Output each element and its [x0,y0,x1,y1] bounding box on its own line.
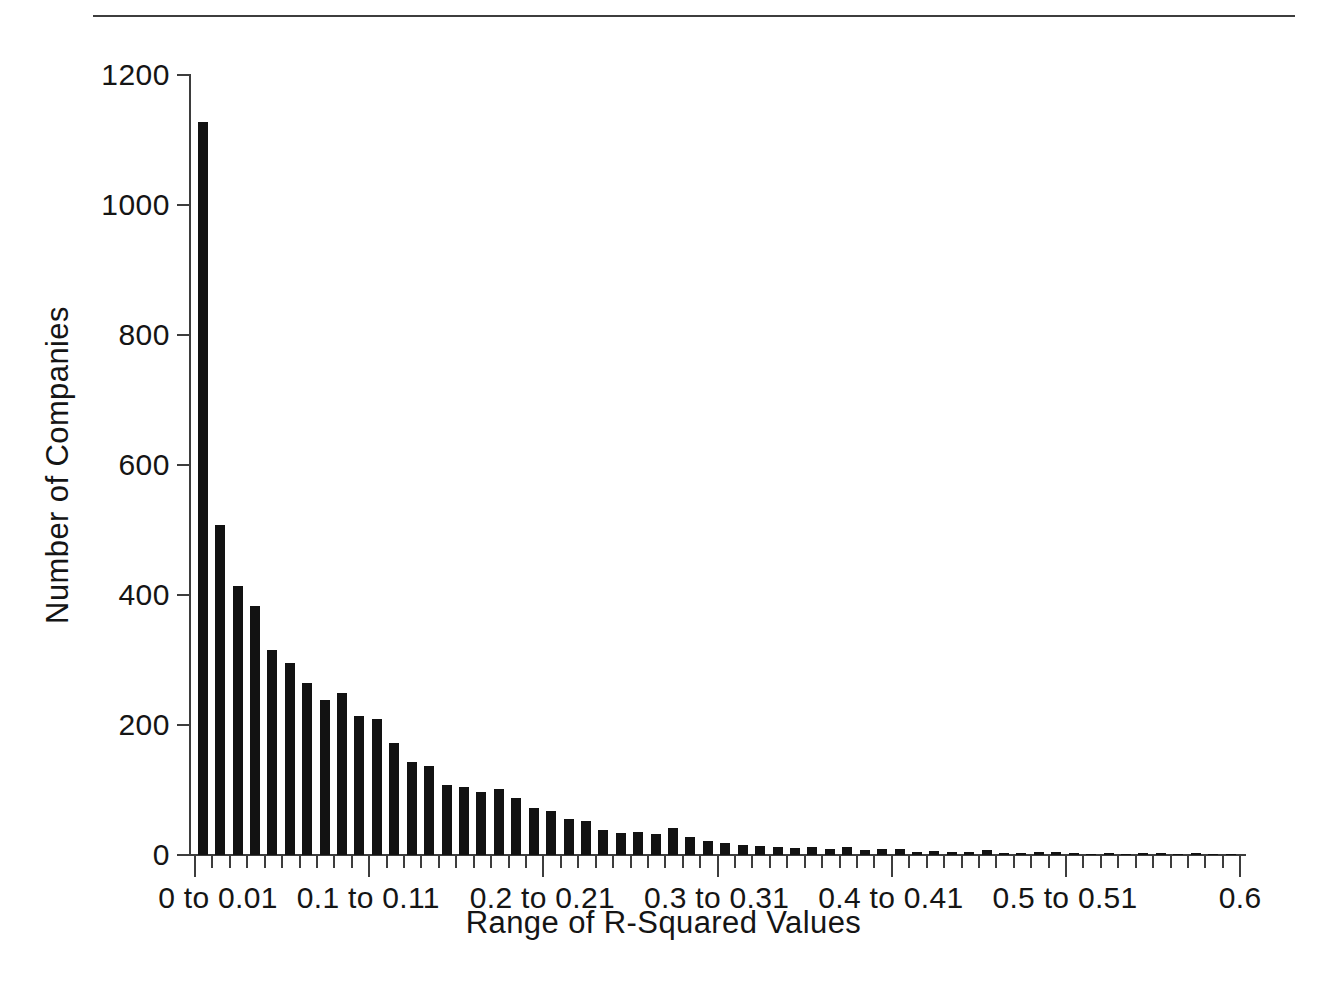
histogram-bar [982,850,992,855]
y-axis-tick-label: 600 [118,450,170,480]
histogram-bar [842,847,852,855]
x-axis-minor-tick [299,855,301,868]
histogram-bar [198,122,208,855]
y-axis-tick-label: 1200 [101,60,170,90]
histogram-bar [250,606,260,855]
histogram-bar [790,848,800,855]
x-axis-minor-tick [699,855,701,868]
x-axis-major-tick [368,855,370,877]
y-axis-tick [177,204,190,206]
x-axis-minor-tick [612,855,614,868]
histogram-bar [947,852,957,855]
histogram-bar [685,837,695,855]
y-axis-tick-label: 1000 [101,190,170,220]
plot-area: 020040060080010001200 0 to 0.010.1 to 0.… [190,75,1245,855]
histogram-bar [285,663,295,855]
histogram-bar [633,832,643,855]
histogram-bar [964,852,974,855]
x-axis-minor-tick [1030,855,1032,868]
x-axis-minor-tick [264,855,266,868]
histogram-bar [1051,852,1061,855]
y-axis-tick [177,854,190,856]
histogram-bar [616,833,626,855]
histogram-bar [895,849,905,856]
x-axis-minor-tick [490,855,492,868]
histogram-bar [755,846,765,855]
histogram-bar [233,586,243,855]
histogram-bar [999,853,1009,855]
histogram-bar [1173,854,1183,856]
x-axis-minor-tick [560,855,562,868]
x-axis-minor-tick [455,855,457,868]
x-axis-minor-tick [630,855,632,868]
x-axis-minor-tick [595,855,597,868]
histogram-bar [860,850,870,855]
histogram-figure: 020040060080010001200 0 to 0.010.1 to 0.… [0,0,1327,993]
histogram-bar [511,798,521,855]
y-axis-tick-label: 200 [118,710,170,740]
histogram-bar [877,849,887,855]
histogram-bar [738,845,748,855]
x-axis-minor-tick [873,855,875,868]
x-axis-minor-tick [316,855,318,868]
histogram-bar [1121,854,1131,856]
x-axis-minor-tick [246,855,248,868]
histogram-bar [668,828,678,855]
x-axis-major-tick [1065,855,1067,877]
histogram-bar [389,743,399,855]
histogram-bar [651,834,661,855]
y-axis-tick [177,334,190,336]
x-axis-minor-tick [403,855,405,868]
x-axis-minor-tick [769,855,771,868]
histogram-bar [529,808,539,855]
x-axis-minor-tick [647,855,649,868]
histogram-bar [1191,853,1201,855]
x-axis-minor-tick [978,855,980,868]
x-axis-minor-tick [961,855,963,868]
y-axis-tick [177,464,190,466]
x-axis-major-tick [542,855,544,877]
x-axis-minor-tick [229,855,231,868]
y-axis-tick [177,74,190,76]
x-axis-minor-tick [1135,855,1137,868]
x-axis-minor-tick [1082,855,1084,868]
x-axis-minor-tick [1204,855,1206,868]
y-axis-tick-label: 400 [118,580,170,610]
x-axis-minor-tick [351,855,353,868]
histogram-bar [442,785,452,855]
histogram-bar [372,719,382,856]
x-axis-minor-tick [508,855,510,868]
x-axis-minor-tick [734,855,736,868]
histogram-bar [407,762,417,855]
x-axis-minor-tick [386,855,388,868]
histogram-bar [720,843,730,855]
x-axis-minor-tick [525,855,527,868]
x-axis-minor-tick [751,855,753,868]
histogram-bar [459,787,469,855]
x-axis-minor-tick [908,855,910,868]
histogram-bar [807,847,817,855]
histogram-bar [1069,853,1079,855]
histogram-bar [1104,853,1114,855]
x-axis-minor-tick [839,855,841,868]
x-axis-title: Range of R-Squared Values [0,905,1327,941]
x-axis-minor-tick [943,855,945,868]
histogram-bar [476,792,486,855]
histogram-bar [424,766,434,855]
x-axis-minor-tick [438,855,440,868]
histogram-bar [320,700,330,855]
x-axis-major-tick [1239,855,1241,877]
x-axis-minor-tick [682,855,684,868]
y-axis-tick-label: 800 [118,320,170,350]
x-axis-minor-tick [1117,855,1119,868]
histogram-bar [598,830,608,855]
x-axis-minor-tick [473,855,475,868]
x-axis-minor-tick [1222,855,1224,868]
x-axis-minor-tick [995,855,997,868]
histogram-bar [1208,854,1218,856]
y-axis-tick [177,594,190,596]
x-axis-minor-tick [664,855,666,868]
x-axis-minor-tick [1048,855,1050,868]
x-axis-minor-tick [821,855,823,868]
histogram-bar [215,525,225,855]
